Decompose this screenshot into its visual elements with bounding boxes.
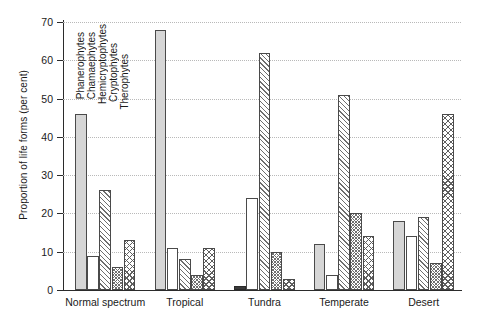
y-axis-tick-label: 40 [27, 131, 53, 143]
bar [442, 114, 454, 290]
bar [124, 240, 136, 290]
y-axis-tick-label: 50 [27, 93, 53, 105]
bar [179, 259, 191, 290]
bar [234, 286, 246, 290]
bar [259, 53, 271, 290]
bar [326, 275, 338, 290]
bar [338, 95, 350, 290]
bar [350, 213, 362, 290]
x-axis-category-label: Temperate [319, 296, 369, 308]
bar [393, 221, 405, 290]
y-axis-tick [57, 99, 63, 100]
y-axis-tick-label: 10 [27, 246, 53, 258]
y-axis-tick [57, 60, 63, 61]
y-axis-tick [57, 137, 63, 138]
y-axis-tick-label: 20 [27, 207, 53, 219]
bar [271, 252, 283, 290]
bar [155, 30, 167, 290]
bar [167, 248, 179, 290]
y-axis-tick [57, 175, 63, 176]
gridline [63, 22, 461, 23]
bar-chart: Proportion of life forms (per cent) Phan… [0, 0, 480, 325]
x-axis-category-label: Desert [408, 296, 439, 308]
bar [406, 236, 418, 290]
y-axis-tick-label: 70 [27, 16, 53, 28]
bar [75, 114, 87, 290]
legend-item-cryptophytes: Cryptophytes [109, 43, 119, 102]
bar [418, 217, 430, 290]
legend-item-chamaephytes: Chamaephytes [87, 32, 97, 99]
y-axis-tick [57, 252, 63, 253]
y-axis-tick [57, 290, 63, 291]
bar [87, 256, 99, 290]
legend-item-phanerophytes: Phanerophytes [76, 32, 86, 99]
x-axis-category-label: Tundra [248, 296, 281, 308]
y-axis-tick [57, 22, 63, 23]
bar [112, 267, 124, 290]
bar [430, 263, 442, 290]
bar [99, 190, 111, 290]
legend: Phanerophytes Chamaephytes Hemicryptophy… [76, 24, 131, 136]
bar [203, 248, 215, 290]
bar [283, 279, 295, 290]
x-axis-line [62, 290, 462, 291]
bar [314, 244, 326, 290]
y-axis-tick [57, 213, 63, 214]
y-axis-tick-label: 60 [27, 54, 53, 66]
y-axis-tick-label: 0 [27, 284, 53, 296]
legend-item-hemicryptophytes: Hemicryptophytes [98, 24, 108, 104]
bar [191, 275, 203, 290]
bar [363, 236, 375, 290]
bar [246, 198, 258, 290]
x-axis-category-label: Normal spectrum [65, 296, 145, 308]
y-axis-tick-label: 30 [27, 169, 53, 181]
x-axis-category-label: Tropical [166, 296, 203, 308]
legend-item-therophytes: Therophytes [120, 54, 130, 110]
